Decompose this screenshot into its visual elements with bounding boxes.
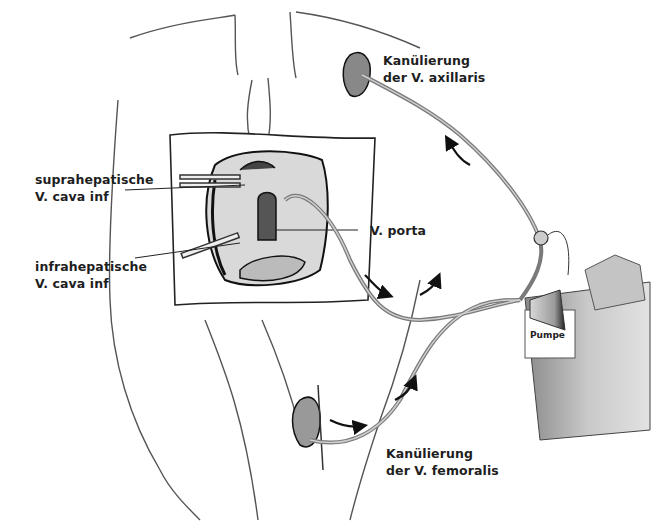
label-axillaris: Kanülierung der V. axillaris <box>383 52 485 86</box>
label-infrahepatisch-line1: infrahepatische <box>35 258 147 275</box>
right-shoulder <box>296 12 420 48</box>
label-suprahepatisch-line2: V. cava inf <box>35 188 154 205</box>
groin-left <box>205 320 258 520</box>
label-porta: V. porta <box>370 222 426 239</box>
label-suprahepatisch: suprahepatische V. cava inf <box>35 171 154 205</box>
label-pumpe: Pumpe <box>530 330 565 340</box>
neck-right <box>290 12 296 78</box>
right-flank <box>350 280 420 520</box>
label-femoralis: Kanülierung der V. femoralis <box>386 445 499 479</box>
left-shoulder <box>130 15 235 38</box>
arrow-portal-2 <box>420 278 438 295</box>
tube-axillary <box>362 75 540 240</box>
label-femoralis-line2: der V. femoralis <box>386 462 499 479</box>
label-pumpe-text: Pumpe <box>530 330 565 340</box>
label-axillaris-line2: der V. axillaris <box>383 69 485 86</box>
axillary-cannula-site <box>343 53 370 97</box>
y-connector <box>534 231 548 245</box>
label-femoralis-line1: Kanülierung <box>386 445 499 462</box>
label-suprahepatisch-line1: suprahepatische <box>35 171 154 188</box>
side-line <box>548 231 569 275</box>
arrow-femoral-1 <box>330 420 362 427</box>
label-infrahepatisch-line2: V. cava inf <box>35 275 147 292</box>
label-porta-text: V. porta <box>370 223 426 238</box>
left-leg <box>160 470 200 520</box>
portal-vein-loop <box>258 193 276 241</box>
tube-junction <box>520 240 541 300</box>
clamp-supra <box>180 175 240 179</box>
trachea <box>247 78 270 140</box>
label-axillaris-line1: Kanülierung <box>383 52 485 69</box>
pump-device <box>525 255 650 440</box>
neck-left <box>235 15 238 75</box>
arrow-axillary <box>448 140 470 165</box>
label-infrahepatisch: infrahepatische V. cava inf <box>35 258 147 292</box>
operative-field <box>206 151 327 285</box>
pump-top <box>585 255 645 310</box>
